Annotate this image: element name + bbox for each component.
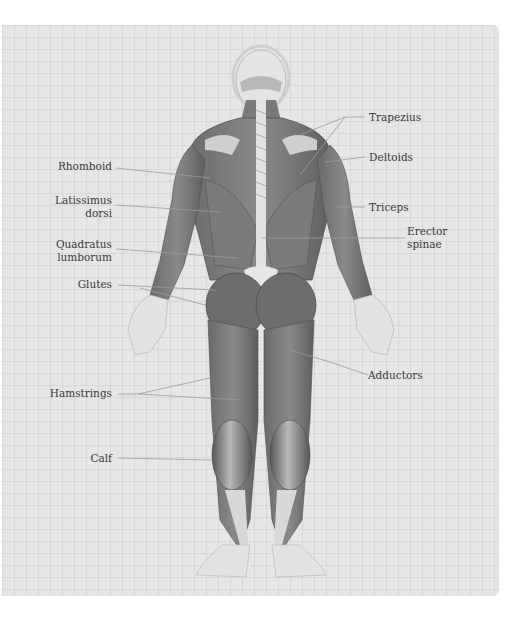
label-rhomboid: Rhomboid — [50, 160, 112, 173]
label-latissimus-dorsi: Latissimus dorsi — [40, 194, 112, 220]
label-hamstrings: Hamstrings — [30, 387, 112, 400]
label-adductors: Adductors — [368, 369, 423, 382]
label-erector-spinae: Erector spinae — [407, 225, 447, 251]
label-deltoids: Deltoids — [369, 151, 413, 164]
leader-lines — [0, 0, 522, 620]
label-glutes: Glutes — [50, 278, 112, 291]
label-quadratus-lumborum: Quadratus lumborum — [40, 238, 112, 264]
label-calf: Calf — [50, 452, 112, 465]
label-trapezius: Trapezius — [369, 111, 421, 124]
label-triceps: Triceps — [369, 201, 409, 214]
